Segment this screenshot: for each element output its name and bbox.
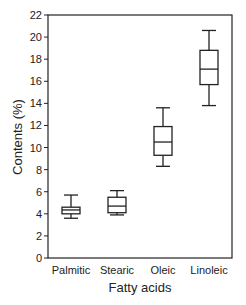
y-axis-ticks: 0246810121416182022 (30, 9, 48, 264)
x-tick-label: Oleic (150, 264, 176, 276)
x-tick-label: Linoleic (190, 264, 228, 276)
y-tick-label: 14 (30, 97, 42, 109)
box-palmitic (62, 195, 80, 218)
iqr-box (200, 50, 218, 84)
box-plot-chart: 0246810121416182022 PalmiticStearicOleic… (0, 0, 246, 305)
y-tick-label: 4 (36, 208, 42, 220)
box-stearic (108, 191, 126, 215)
box-linoleic (200, 30, 218, 105)
iqr-box (154, 127, 172, 156)
iqr-box (108, 197, 126, 212)
x-axis-title: Fatty acids (109, 280, 172, 295)
y-tick-label: 18 (30, 53, 42, 65)
box-oleic (154, 108, 172, 167)
y-tick-label: 20 (30, 31, 42, 43)
y-tick-label: 0 (36, 252, 42, 264)
x-tick-label: Palmitic (52, 264, 91, 276)
y-tick-label: 8 (36, 164, 42, 176)
x-axis-tick-labels: PalmiticStearicOleicLinoleic (52, 264, 228, 276)
y-tick-label: 22 (30, 9, 42, 21)
y-tick-label: 16 (30, 75, 42, 87)
y-tick-label: 10 (30, 142, 42, 154)
box-series (62, 30, 218, 218)
x-tick-label: Stearic (100, 264, 135, 276)
y-axis-title: Contents (%) (10, 99, 25, 175)
y-tick-label: 12 (30, 119, 42, 131)
y-tick-label: 6 (36, 186, 42, 198)
y-tick-label: 2 (36, 230, 42, 242)
